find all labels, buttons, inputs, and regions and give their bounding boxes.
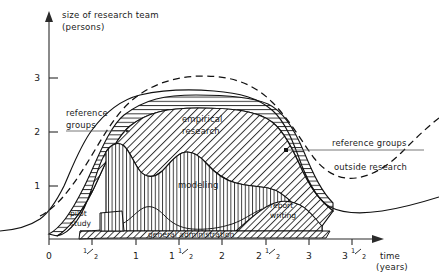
x-tick-0p5-den: 2 [94,253,98,261]
y-tick-marks [49,78,58,186]
x-tick-0p5-num: 1 [83,247,87,255]
x-tick-label-half: 1 2 [83,247,98,261]
x-tick-1p5-whole: 1 [169,250,175,261]
y-axis-arrowhead [45,11,53,22]
x-tick-2p5-num: 1 [265,247,269,255]
x-axis-arrowhead [372,235,384,243]
x-tick-label-1: 1 [133,250,139,261]
x-tick-1p5-den: 2 [189,253,193,261]
stacked-band-group [0,76,439,239]
label-pilot-study-line1: pilot [70,209,87,218]
x-tick-2p5-whole: 2 [256,250,262,261]
leader-marker-square-reference-groups-right [284,148,288,152]
research-team-size-area-chart: 1 2 3 0 1 2 [0,0,439,275]
x-tick-label-two-half: 2 1 2 [256,247,280,261]
y-tick-label-2: 2 [34,126,40,137]
x-tick-label-2: 2 [219,250,225,261]
x-tick-marks [49,239,352,245]
x-tick-labels: 0 1 2 1 1 1 2 2 2 1 2 [46,247,366,261]
x-tick-label-one-half: 1 1 2 [169,247,193,261]
x-tick-3p5-num: 1 [351,247,355,255]
x-tick-label-3: 3 [306,250,312,261]
label-reference-groups-left-line1: reference [66,108,108,118]
x-tick-2p5-den: 2 [276,253,280,261]
x-axis-title-line1: time [380,251,400,261]
x-tick-1p5-num: 1 [178,247,182,255]
label-outside-research-right: outside research [334,162,407,172]
band-pilot-study [100,211,124,231]
y-axis-title-line1: size of research team [62,10,159,20]
x-tick-label-0: 0 [46,250,52,261]
x-tick-3p5-den: 2 [362,253,366,261]
label-general-administration: general administration [148,230,235,239]
label-pilot-study-line2: study [70,219,92,228]
label-empirical-research-line2: research [182,126,220,136]
label-report-writing-line1: report [270,201,293,210]
label-empirical-research-line1: empirical [182,114,223,124]
label-modeling: modeling [178,180,219,190]
label-reference-groups-left-line2: groups [66,120,96,130]
x-tick-3p5-whole: 3 [342,250,348,261]
figure-canvas: 1 2 3 0 1 2 [0,0,439,275]
y-axis-title-line2: (persons) [62,22,104,32]
y-tick-label-1: 1 [34,180,40,191]
x-tick-label-three-half: 3 1 2 [342,247,366,261]
x-axis-title-line2: (years) [376,262,408,272]
label-report-writing-line2: writing [270,211,296,220]
y-tick-label-3: 3 [34,72,40,83]
label-reference-groups-right: reference groups [332,138,407,148]
